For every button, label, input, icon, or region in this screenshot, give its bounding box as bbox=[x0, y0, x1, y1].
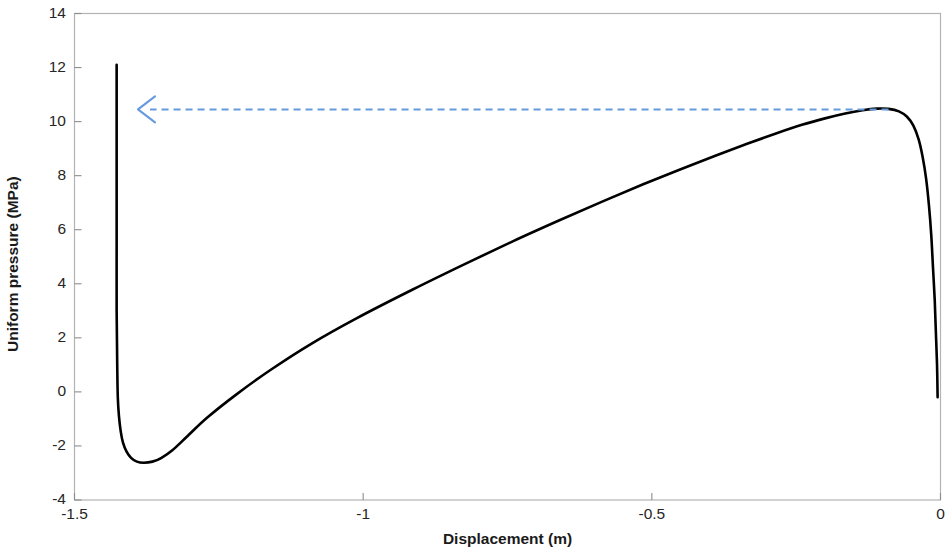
y-tick-label: 6 bbox=[20, 220, 66, 238]
x-tick-label: -0.5 bbox=[612, 505, 692, 523]
y-tick-label: 8 bbox=[20, 166, 66, 184]
plot-canvas bbox=[0, 0, 952, 553]
y-tick-label: -2 bbox=[20, 436, 66, 454]
y-tick-label: 2 bbox=[20, 328, 66, 346]
x-tick-label: -1 bbox=[323, 505, 403, 523]
y-tick-label: 0 bbox=[20, 382, 66, 400]
x-tick-label: -1.5 bbox=[35, 505, 115, 523]
y-tick-label: 10 bbox=[20, 112, 66, 130]
y-axis-title: Uniform pressure (MPa) bbox=[4, 152, 22, 352]
x-tick-label: 0 bbox=[901, 505, 952, 523]
plot-axes-box bbox=[75, 14, 941, 501]
y-tick-label: 4 bbox=[20, 274, 66, 292]
y-tick-label: 14 bbox=[20, 4, 66, 22]
x-axis-title: Displacement (m) bbox=[358, 530, 658, 548]
chart-figure: -4-202468101214 -1.5-1-0.50 Uniform pres… bbox=[0, 0, 952, 553]
y-tick-label: 12 bbox=[20, 58, 66, 76]
